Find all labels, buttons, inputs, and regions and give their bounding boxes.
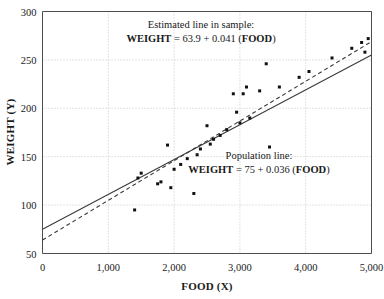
data-point: [298, 76, 301, 79]
data-point: [133, 208, 136, 211]
y-tick-label: 100: [21, 200, 37, 211]
annotation-estimated-title: Estimated line in sample:: [148, 19, 255, 30]
data-point: [209, 143, 212, 146]
data-point: [206, 124, 209, 127]
data-point: [186, 157, 189, 160]
data-point: [173, 168, 176, 171]
annotation-estimated-eq-middle: = 63.9 + 0.041 (: [171, 33, 242, 45]
y-tick-label: 150: [21, 152, 37, 163]
x-tick-label: 2,000: [162, 262, 186, 273]
data-point: [179, 163, 182, 166]
data-point: [136, 176, 139, 179]
data-point: [199, 147, 202, 150]
data-point: [248, 116, 251, 119]
data-point: [242, 92, 245, 95]
data-point: [331, 56, 334, 59]
tick-labels-group: 01,0002,0003,0004,0005,00050100150200250…: [21, 7, 384, 273]
data-point: [225, 128, 228, 131]
data-point: [219, 134, 222, 137]
scatter-plot-figure: 01,0002,0003,0004,0005,00050100150200250…: [0, 0, 384, 299]
annotation-estimated-eq-food: FOOD: [242, 33, 273, 44]
annotation-population-eq-middle: = 75 + 0.036 (: [233, 164, 296, 176]
y-tick-label: 50: [26, 249, 37, 260]
y-tick-label: 250: [21, 55, 37, 66]
x-tick-label: 1,000: [96, 262, 120, 273]
data-point: [265, 62, 268, 65]
data-point: [258, 89, 261, 92]
data-point: [350, 47, 353, 50]
data-point: [363, 51, 366, 54]
annotation-estimated-line: Estimated line in sample: WEIGHT = 63.9 …: [126, 19, 276, 45]
data-point: [367, 37, 370, 40]
annotation-estimated-equation: WEIGHT = 63.9 + 0.041 (FOOD): [126, 33, 276, 45]
data-points-group: [133, 37, 370, 211]
estimated-regression-line: [43, 42, 372, 240]
data-point: [268, 146, 271, 149]
x-tick-label: 5,000: [360, 262, 384, 273]
annotation-population-eq-food: FOOD: [296, 164, 327, 175]
data-point: [159, 180, 162, 183]
data-point: [169, 186, 172, 189]
data-point: [278, 86, 281, 89]
regression-lines-group: [43, 42, 372, 240]
annotation-population-line: Population line: WEIGHT = 75 + 0.036 (FO…: [188, 150, 330, 176]
data-point: [238, 121, 241, 124]
plot-frame: [43, 12, 372, 254]
x-tick-label: 4,000: [294, 262, 318, 273]
data-point: [196, 153, 199, 156]
x-tick-label: 0: [40, 262, 45, 273]
data-point: [166, 144, 169, 147]
data-point: [360, 41, 363, 44]
annotation-population-equation: WEIGHT = 75 + 0.036 (FOOD): [188, 164, 330, 176]
population-regression-line: [43, 55, 372, 229]
annotation-population-eq-end: ): [326, 164, 330, 176]
annotation-population-eq-weight: WEIGHT: [188, 164, 233, 175]
data-point: [235, 111, 238, 114]
gridlines-group: [43, 12, 372, 254]
data-point: [156, 182, 159, 185]
annotation-estimated-eq-end: ): [272, 33, 276, 45]
annotation-estimated-eq-weight: WEIGHT: [126, 33, 171, 44]
data-point: [307, 70, 310, 73]
data-point: [140, 172, 143, 175]
data-point: [192, 192, 195, 195]
chart-canvas: 01,0002,0003,0004,0005,00050100150200250…: [0, 0, 384, 299]
data-point: [212, 138, 215, 141]
data-point: [232, 92, 235, 95]
x-axis-title: FOOD (X): [181, 280, 233, 293]
data-point: [245, 86, 248, 89]
x-tick-label: 3,000: [228, 262, 252, 273]
annotation-population-title: Population line:: [226, 150, 293, 161]
y-tick-label: 200: [21, 103, 37, 114]
y-axis-title: WEIGHT (Y): [4, 98, 17, 165]
y-tick-label: 300: [21, 7, 37, 18]
